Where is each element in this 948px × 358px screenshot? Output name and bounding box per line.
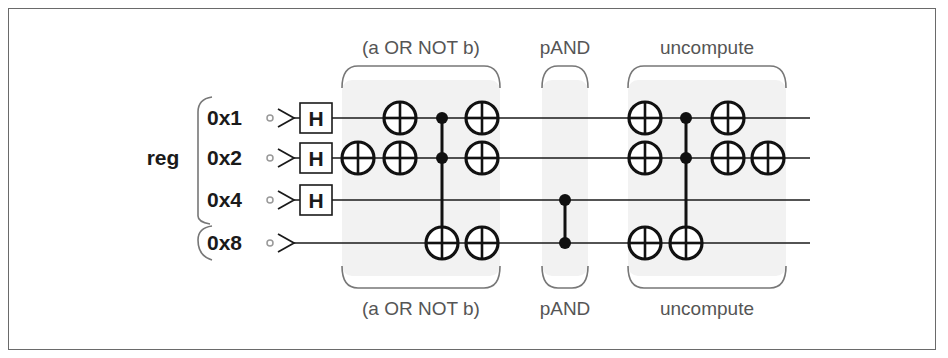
hadamard-label: H [308,189,323,212]
register-label: reg [147,146,180,169]
hadamard-label: H [308,147,323,170]
gate-not-0 [342,142,374,174]
control-dot-icon [680,152,692,164]
control-dot-icon [559,237,571,249]
section-1: pANDpAND [540,37,591,319]
section-label-top: pAND [540,37,591,58]
section-label-bottom: pAND [540,298,591,319]
section-label-bottom: (a OR NOT b) [362,298,480,319]
control-dot-icon [436,112,448,124]
qubit-label: 0x4 [207,188,242,211]
quantum-circuit: (a OR NOT b)(a OR NOT b)pANDpANDuncomput… [0,0,948,358]
input-chevron-icon [278,109,294,127]
input-chevron-icon [278,234,294,252]
qubit-label: 0x8 [207,231,242,254]
section-0: (a OR NOT b)(a OR NOT b) [342,37,500,319]
input-chevron-icon [278,149,294,167]
section-label-bottom: uncompute [660,298,754,319]
qubit-label: 0x2 [207,146,242,169]
section-2: uncomputeuncompute [628,37,786,319]
init-circle-icon [267,155,273,161]
init-circle-icon [267,115,273,121]
hadamard-label: H [308,107,323,130]
control-dot-icon [436,152,448,164]
control-dot-icon [559,194,571,206]
input-chevron-icon [278,191,294,209]
section-label-top: uncompute [660,37,754,58]
section-label-top: (a OR NOT b) [362,37,480,58]
init-circle-icon [267,197,273,203]
control-dot-icon [680,112,692,124]
init-circle-icon [267,240,273,246]
gate-not-8 [752,142,784,174]
qubit-label: 0x1 [207,106,242,129]
